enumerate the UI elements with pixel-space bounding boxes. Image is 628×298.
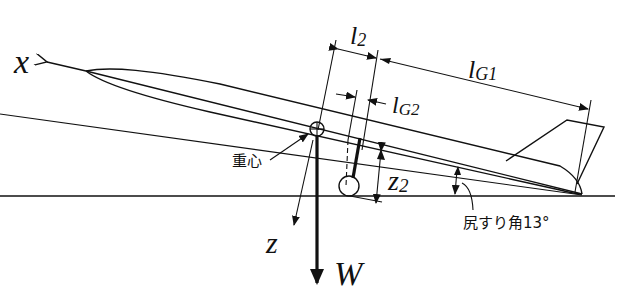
tail-strike-diagram: x l2 lG1 lG2 重心 W z z2 尻すり <box>0 0 628 298</box>
x-axis-arrow <box>47 62 86 71</box>
lG2-arrow-right <box>368 100 386 104</box>
vertical-tail-fin <box>506 120 604 184</box>
lG2-arrow-left <box>336 94 355 97</box>
main-gear-dashed-line <box>346 140 348 186</box>
x-axis-label: x <box>13 43 29 80</box>
weight-label: W <box>334 255 365 292</box>
lG1-extension-right <box>575 100 591 192</box>
l2-dimension <box>338 49 376 58</box>
l2-extension-left <box>318 40 336 130</box>
z-axis-label: z <box>265 226 278 259</box>
lG1-label: lG1 <box>468 55 497 84</box>
cg-label: 重心 <box>232 152 262 170</box>
tail-strike-label: 尻すり角13° <box>463 214 550 232</box>
z-axis-arrow <box>294 140 313 225</box>
lG2-label: lG2 <box>392 92 420 119</box>
main-gear-wheel <box>339 176 359 196</box>
lower-datum-line <box>0 114 582 195</box>
l2-label: l2 <box>350 21 366 50</box>
diagram-canvas: x l2 lG1 lG2 重心 W z z2 尻すり <box>0 0 628 298</box>
lG1-arrowhead-left <box>380 58 391 64</box>
z2-label: z2 <box>387 165 409 196</box>
gear-ground-contact-line <box>350 196 382 202</box>
